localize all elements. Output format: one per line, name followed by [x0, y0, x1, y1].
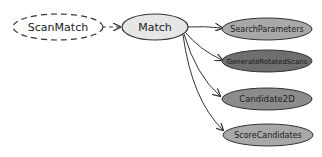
edge-match-generaterotatedscans — [185, 32, 222, 60]
node-match: Match — [122, 14, 188, 40]
node-scanmatch: ScanMatch — [13, 14, 103, 40]
node-label: Candidate2D — [239, 94, 295, 104]
node-label: GenerateRotatedScans — [227, 58, 308, 66]
node-label: ScanMatch — [28, 21, 88, 34]
call-graph-diagram: ScanMatch Match SearchParameters Generat… — [0, 0, 322, 157]
node-searchparameters: SearchParameters — [222, 18, 312, 40]
node-label: ScoreCandidates — [234, 131, 301, 140]
node-label: SearchParameters — [230, 25, 303, 34]
edge-match-candidate2d — [184, 34, 220, 96]
node-scorecandidates: ScoreCandidates — [223, 124, 313, 146]
node-label: Match — [138, 21, 172, 34]
node-generaterotatedscans: GenerateRotatedScans — [222, 50, 312, 72]
edge-match-searchparameters — [187, 27, 222, 28]
node-candidate2d: Candidate2D — [222, 88, 312, 110]
edges — [102, 27, 223, 130]
